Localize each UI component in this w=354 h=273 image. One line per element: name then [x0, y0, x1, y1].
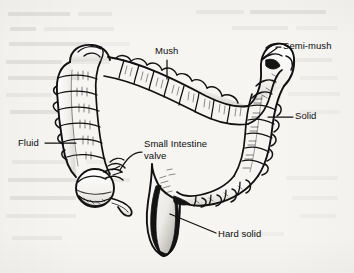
label-solid: Solid	[295, 110, 316, 122]
label-mush: Mush	[155, 45, 178, 57]
figure-large-intestine: Mush Semi-mush Solid Fluid Small Intesti…	[0, 0, 354, 273]
transverse-colon	[104, 56, 248, 125]
small-intestine-valve-leader	[120, 152, 142, 170]
label-hard-solid: Hard solid	[218, 228, 261, 240]
ascending-colon	[53, 60, 110, 177]
rectum	[147, 164, 190, 256]
label-fluid: Fluid	[18, 137, 39, 149]
cecum	[76, 169, 114, 207]
label-small-intestine-valve: Small Intestine valve	[144, 138, 207, 161]
splenic-flexure	[248, 43, 294, 124]
appendix	[110, 198, 132, 216]
sigmoid-colon	[177, 176, 258, 207]
hepatic-flexure	[70, 45, 110, 62]
label-semi-mush: Semi-mush	[283, 40, 332, 52]
